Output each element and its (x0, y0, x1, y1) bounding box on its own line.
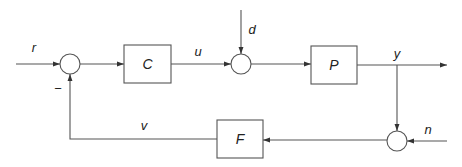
block-F-label: F (236, 131, 246, 147)
label-r: r (32, 40, 37, 55)
label-d: d (248, 22, 256, 37)
label-u: u (194, 44, 201, 59)
summing-junction-1 (60, 54, 80, 74)
label-n: n (424, 122, 431, 137)
summing-junction-2 (231, 54, 251, 74)
summing-junction-3 (387, 131, 407, 151)
block-P-label: P (329, 57, 339, 73)
label-v: v (141, 118, 149, 133)
block-diagram: C P F r u d y n v − (0, 0, 462, 167)
block-C-label: C (142, 56, 153, 72)
label-y: y (393, 46, 402, 61)
block-C: C (124, 45, 171, 83)
minus-sign: − (54, 81, 62, 96)
block-P: P (311, 46, 357, 84)
block-F: F (217, 120, 263, 158)
